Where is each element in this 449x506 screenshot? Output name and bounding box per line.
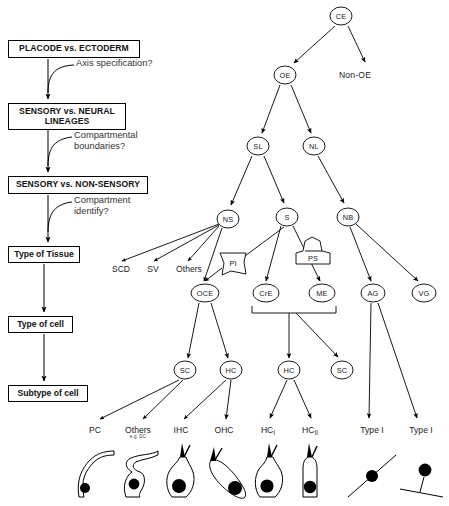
stage-box-sensory-nonsensory[interactable]: SENSORY vs. NON-SENSORY (8, 176, 148, 194)
cell-ihc (167, 443, 194, 497)
stage-box-label: SENSORY vs. NON-SENSORY (16, 180, 140, 190)
node-CE[interactable]: CE (336, 12, 347, 21)
question-compartment-identify: Compartment identify? (74, 195, 130, 217)
leaf-HC-II: HCII (302, 425, 318, 436)
leaf-label-text: Type I (360, 425, 383, 435)
stage-box-label: PLACODE vs. ECTODERM (19, 44, 129, 54)
stage-box-label: SENSORY vs. NEURAL LINEAGES (9, 107, 125, 126)
callout-PI[interactable]: PI (230, 259, 237, 268)
cell-neuron-unipolar (400, 464, 443, 497)
leaf-type-I-b: Type I (409, 425, 432, 435)
stage-box-label: Type of cell (17, 320, 64, 330)
callout-PS[interactable]: PS (308, 254, 318, 263)
cell-ohc (210, 447, 246, 498)
stage-box-subtype-of-cell[interactable]: Subtype of cell (8, 385, 88, 402)
cell-neuron-bipolar (348, 455, 396, 497)
leaf-label-text: HC (261, 425, 273, 435)
leaf-OHC: OHC (214, 425, 233, 435)
stage-box-type-of-cell[interactable]: Type of cell (8, 316, 73, 333)
leaf-PC: PC (89, 425, 101, 435)
question-axis-specification: Axis specification? (76, 58, 152, 69)
leaf-SCD: SCD (112, 264, 130, 274)
stage-box-label: Type of Tissue (14, 250, 73, 260)
node-ME[interactable]: ME (316, 289, 328, 298)
stage-box-placode-ectoderm[interactable]: PLACODE vs. ECTODERM (8, 40, 140, 58)
tree-edges (100, 26, 418, 419)
leaf-HC-I: HCI (261, 425, 275, 436)
stage-box-label: Subtype of cell (17, 389, 78, 399)
node-ellipses (174, 7, 436, 379)
leaf-label-roman: II (314, 429, 318, 436)
question-compartmental-boundaries: Compartmental boundaries? (74, 130, 138, 152)
leaf-label-roman: I (273, 429, 275, 436)
leaf-label-text: IHC (174, 425, 189, 435)
cell-deiters (124, 451, 158, 497)
node-CrE[interactable]: CrE (259, 289, 272, 298)
leaf-label-text: PC (89, 425, 101, 435)
node-NL[interactable]: NL (309, 142, 319, 151)
stage-box-type-of-tissue[interactable]: Type of Tissue (8, 246, 80, 263)
node-HC-vestibular[interactable]: HC (283, 366, 294, 375)
cell-hc2 (303, 443, 317, 497)
leaf-type-I-a: Type I (360, 425, 383, 435)
cell-drawings (78, 443, 443, 498)
leaf-others-dc: Others e.g. DC (125, 425, 151, 439)
node-SL[interactable]: SL (253, 142, 262, 151)
leaf-IHC: IHC (174, 425, 189, 435)
leaf-SV: SV (147, 264, 158, 274)
cell-pillar (78, 451, 114, 497)
leader-compartmental-boundaries (48, 137, 72, 166)
leader-compartment-identify (48, 202, 72, 232)
node-SC-cochlear[interactable]: SC (180, 366, 191, 375)
node-VG[interactable]: VG (418, 289, 429, 298)
leaf-label-text: Type I (409, 425, 432, 435)
leader-axis-specification (48, 65, 74, 93)
node-non-oe[interactable]: Non-OE (339, 70, 371, 80)
leaf-label-text: HC (302, 425, 314, 435)
figure-canvas: PLACODE vs. ECTODERM SENSORY vs. NEURAL … (0, 0, 449, 506)
node-S[interactable]: S (284, 213, 289, 222)
leaf-label-text: OHC (214, 425, 233, 435)
stage-box-sensory-neural[interactable]: SENSORY vs. NEURAL LINEAGES (8, 103, 126, 130)
node-NB[interactable]: NB (343, 213, 354, 222)
node-NS[interactable]: NS (223, 215, 234, 224)
node-SC-vestibular[interactable]: SC (337, 366, 348, 375)
node-OE[interactable]: OE (279, 71, 290, 80)
node-OCE[interactable]: OCE (197, 289, 214, 298)
node-AG[interactable]: AG (367, 289, 378, 298)
cell-hc1 (255, 443, 282, 497)
node-HC-cochlear[interactable]: HC (225, 366, 236, 375)
leaf-Others-tissue: Others (176, 264, 202, 274)
